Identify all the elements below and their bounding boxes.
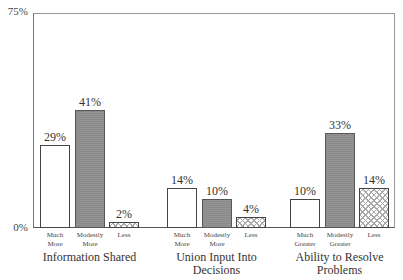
- group-label: Union Input IntoDecisions: [152, 251, 282, 277]
- group-label-line2: Decisions: [152, 264, 282, 277]
- bar-value-label: 2%: [104, 207, 144, 222]
- grouped-bar-chart: 75% 0% 29%MuchMore41%ModestlyMore2%LessI…: [0, 0, 403, 280]
- category-label-line2: More: [197, 240, 237, 249]
- bar-value-label: 29%: [35, 130, 75, 145]
- bar-value-label: 14%: [162, 173, 202, 188]
- category-label-line2: Greater: [285, 240, 325, 249]
- category-label-line2: More: [162, 240, 202, 249]
- bar-gray: [75, 110, 105, 228]
- bar-crosshatch: [359, 188, 389, 228]
- bar-gray: [202, 199, 232, 228]
- group-label-line1: Information Shared: [25, 251, 155, 264]
- bar-value-label: 4%: [231, 202, 271, 217]
- bar-crosshatch: [236, 217, 266, 228]
- category-label: MuchMore: [162, 231, 202, 249]
- bar-crosshatch: [109, 222, 139, 228]
- category-label: Less: [231, 231, 271, 240]
- bar-value-label: 41%: [70, 95, 110, 110]
- category-label-line1: Less: [104, 231, 144, 240]
- bar-value-label: 10%: [197, 184, 237, 199]
- category-label-line1: Much: [35, 231, 75, 240]
- bar-white: [167, 188, 197, 228]
- category-label-line1: Much: [162, 231, 202, 240]
- y-axis-top-label: 75%: [0, 5, 28, 17]
- category-label: MuchMore: [35, 231, 75, 249]
- category-label-line1: Less: [231, 231, 271, 240]
- category-label: Less: [354, 231, 394, 240]
- y-axis-bottom-label: 0%: [0, 221, 28, 233]
- bar-white: [290, 199, 320, 228]
- bar-value-label: 10%: [285, 184, 325, 199]
- category-label-line2: Greater: [320, 240, 360, 249]
- category-label: Less: [104, 231, 144, 240]
- bar-gray: [325, 133, 355, 228]
- bar-white: [40, 145, 70, 228]
- group-label-line2: Problems: [275, 264, 403, 277]
- category-label-line1: Less: [354, 231, 394, 240]
- group-label: Information Shared: [25, 251, 155, 264]
- group-label: Ability to ResolveProblems: [275, 251, 403, 277]
- category-label-line1: Much: [285, 231, 325, 240]
- bar-value-label: 14%: [354, 173, 394, 188]
- category-label-line2: More: [35, 240, 75, 249]
- bar-value-label: 33%: [320, 118, 360, 133]
- category-label: MuchGreater: [285, 231, 325, 249]
- category-label-line2: More: [70, 240, 110, 249]
